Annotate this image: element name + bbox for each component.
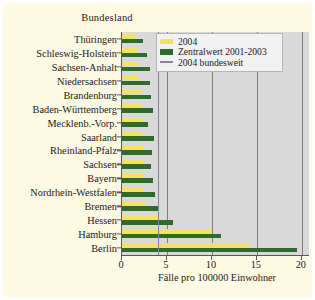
x-axis-tick-label: 0 [118, 259, 123, 270]
bar-zentralwert [122, 122, 148, 127]
legend-label: 2004 bundesweit [178, 57, 243, 68]
y-axis-label: Thüringen [3, 33, 117, 44]
legend-label: Zentralwert 2001-2003 [178, 46, 267, 57]
bar-zentralwert [122, 95, 151, 100]
bar-group [122, 130, 309, 144]
bar-zentralwert [122, 206, 158, 211]
y-axis-tick [117, 150, 121, 151]
bar-zentralwert [122, 53, 147, 58]
bar-group [122, 227, 309, 241]
y-axis-tick [117, 206, 121, 207]
bar-zentralwert [122, 39, 143, 44]
y-axis-label: Sachsen-Anhalt [3, 61, 117, 72]
x-axis-tick-labels: 05101520 [121, 259, 311, 273]
x-axis-tick-label: 5 [163, 259, 168, 270]
y-axis-category-labels: ThüringenSchleswig-HolsteinSachsen-Anhal… [3, 32, 117, 255]
y-axis-label: Sachsen [3, 159, 117, 170]
y-axis-label: Schleswig-Holstein [3, 47, 117, 58]
bar-zentralwert [122, 108, 153, 113]
bar-group [122, 199, 309, 213]
chart-figure: Bundesland ThüringenSchleswig-HolsteinSa… [0, 0, 315, 300]
bar-zentralwert [122, 150, 152, 155]
bar-group [122, 213, 309, 227]
bar-group [122, 116, 309, 130]
bar-group [122, 241, 309, 255]
y-axis-label: Mecklenb.-Vorp. [3, 117, 117, 128]
y-axis-tick [117, 220, 121, 221]
bar-zentralwert [122, 164, 151, 169]
y-axis-title: Bundesland [3, 12, 211, 23]
y-axis-tick [117, 38, 121, 39]
chart-legend: 2004 Zentralwert 2001-2003 2004 bundeswe… [156, 33, 283, 72]
bar-group [122, 185, 309, 199]
legend-item-zentralwert: Zentralwert 2001-2003 [160, 47, 279, 58]
legend-label: 2004 [178, 36, 197, 47]
bar-zentralwert [122, 220, 173, 225]
y-axis-tick [117, 178, 121, 179]
legend-swatch-green-icon [160, 49, 173, 55]
y-axis-label: Niedersachsen [3, 75, 117, 86]
y-axis-label: Hamburg [3, 229, 117, 240]
bar-group [122, 171, 309, 185]
y-axis-tick [117, 164, 121, 165]
y-axis-label: Saarland [3, 131, 117, 142]
bar-zentralwert [122, 136, 154, 141]
bar-zentralwert [122, 248, 297, 253]
bar-zentralwert [122, 192, 155, 197]
bar-group [122, 102, 309, 116]
y-axis-tick [117, 192, 121, 193]
y-axis-tick [117, 94, 121, 95]
y-axis-tick [117, 108, 121, 109]
bar-group [122, 157, 309, 171]
y-axis-tick [117, 66, 121, 67]
y-axis-tick [117, 52, 121, 53]
y-axis-tick [117, 80, 121, 81]
bar-zentralwert [122, 178, 153, 183]
legend-item-2004: 2004 [160, 36, 279, 47]
bar-group [122, 144, 309, 158]
x-axis-title: Fälle pro 100000 Einwohner [121, 272, 313, 283]
x-axis-tick-label: 15 [251, 259, 261, 270]
x-axis-tick-label: 20 [296, 259, 306, 270]
legend-swatch-purple-line-icon [160, 61, 173, 63]
y-axis-tick [117, 122, 121, 123]
legend-item-bundesweit: 2004 bundesweit [160, 57, 279, 68]
y-axis-tick [117, 247, 121, 248]
y-axis-tick [117, 136, 121, 137]
bar-zentralwert [122, 234, 221, 239]
y-axis-label: Rheinland-Pfalz [3, 145, 117, 156]
x-axis-tick-label: 10 [206, 259, 216, 270]
y-axis-label: Bremen [3, 201, 117, 212]
y-axis-label: Hessen [3, 215, 117, 226]
bar-zentralwert [122, 81, 150, 86]
bar-group [122, 88, 309, 102]
y-axis-tick [117, 233, 121, 234]
y-axis-label: Bayern [3, 173, 117, 184]
y-axis-label: Baden-Württemberg [3, 103, 117, 114]
legend-swatch-yellow-icon [160, 39, 173, 45]
y-axis-label: Nordrhein-Westfalen [3, 187, 117, 198]
y-axis-label: Brandenburg [3, 89, 117, 100]
y-axis-label: Berlin [3, 243, 117, 254]
bar-zentralwert [122, 67, 150, 72]
bar-group [122, 74, 309, 88]
